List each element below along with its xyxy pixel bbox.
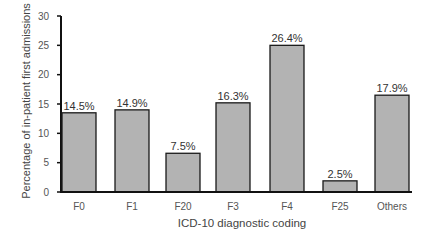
bar-chart: 051015202530 14.5%14.9%7.5%16.3%26.4%2.5… (0, 0, 432, 240)
y-tick-label: 30 (38, 11, 50, 22)
x-axis-title: ICD-10 diagnostic coding (178, 217, 307, 229)
bar-value-label: 14.9% (116, 97, 147, 109)
bar-rect (115, 110, 149, 192)
bar-value-label: 16.3% (217, 90, 248, 102)
y-tick-label: 5 (43, 157, 49, 168)
x-category-label: Others (377, 201, 407, 212)
bar-f0: 14.5% (62, 100, 96, 192)
bar-value-label: 14.5% (63, 100, 94, 112)
bar-f25: 2.5% (323, 168, 357, 192)
y-tick-label: 0 (43, 187, 49, 198)
bar-value-label: 2.5% (327, 168, 352, 180)
y-tick-label: 20 (38, 69, 50, 80)
y-tick-label: 25 (38, 40, 50, 51)
bar-rect (375, 95, 409, 192)
bar-value-label: 26.4% (271, 32, 302, 44)
bars: 14.5%14.9%7.5%16.3%26.4%2.5%17.9% (62, 32, 409, 192)
bar-rect (323, 181, 357, 192)
y-tick-label: 15 (38, 99, 50, 110)
bar-f1: 14.9% (115, 97, 149, 192)
bar-f3: 16.3% (216, 90, 250, 192)
x-category-label: F3 (227, 201, 239, 212)
y-tick-label: 10 (38, 128, 50, 139)
x-category-label: F4 (281, 201, 293, 212)
x-category-label: F0 (73, 201, 85, 212)
bar-f20: 7.5% (166, 140, 200, 192)
bar-value-label: 17.9% (376, 82, 407, 94)
y-axis-title: Percentage of in-patient first admission… (20, 3, 32, 199)
x-category-label: F20 (174, 201, 192, 212)
bar-others: 17.9% (375, 82, 409, 192)
bar-value-label: 7.5% (170, 140, 195, 152)
bar-rect (62, 113, 96, 192)
bar-f4: 26.4% (270, 32, 304, 192)
bar-rect (166, 153, 200, 192)
x-category-label: F25 (331, 201, 349, 212)
y-axis: 051015202530 (38, 11, 61, 198)
bar-rect (270, 45, 304, 192)
bar-rect (216, 103, 250, 192)
x-axis-categories: F0F1F20F3F4F25Others (73, 201, 407, 212)
x-category-label: F1 (126, 201, 138, 212)
